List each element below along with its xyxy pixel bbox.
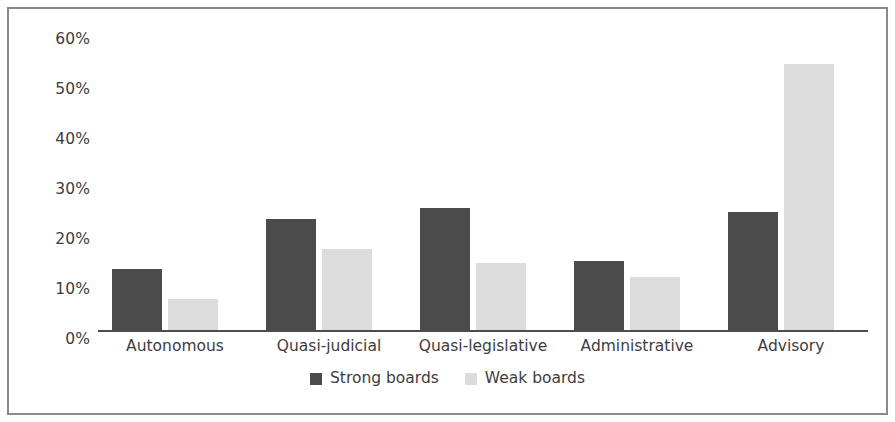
bar-strong-quasi-judicial [266,219,316,331]
bar-groups: Autonomous Quasi-judicial Quasi-legislat… [98,0,868,422]
bar-group-quasi-legislative: Quasi-legislative [406,0,560,422]
legend-item-weak-boards: Weak boards [465,371,585,387]
y-axis-tick-0: 0% [32,332,90,348]
y-axis-tick-30: 30% [32,182,90,198]
bar-strong-quasi-legislative [420,208,470,331]
y-axis-tick-50: 50% [32,82,90,98]
chart-legend: Strong boards Weak boards [0,371,895,387]
bar-weak-advisory [784,64,834,331]
y-axis-tick-20: 20% [32,232,90,248]
bar-weak-quasi-judicial [322,249,372,331]
weak-boards-swatch-icon [465,373,477,385]
bar-strong-autonomous [112,269,162,330]
bar-weak-administrative [630,277,680,330]
y-axis-tick-60: 60% [32,32,90,48]
x-axis-label-autonomous: Autonomous [98,338,252,355]
bar-group-advisory: Advisory [714,0,868,422]
x-axis-label-administrative: Administrative [560,338,714,355]
x-axis-label-quasi-judicial: Quasi-judicial [252,338,406,355]
strong-boards-swatch-icon [310,373,322,385]
chart-screenshot: 60% 50% 40% 30% 20% 10% 0% Autonomous Qu… [0,0,895,422]
legend-label-strong-boards: Strong boards [330,371,439,387]
bar-strong-advisory [728,212,778,331]
bar-strong-administrative [574,261,624,330]
bar-group-autonomous: Autonomous [98,0,252,422]
legend-label-weak-boards: Weak boards [485,371,585,387]
plot-area: 60% 50% 40% 30% 20% 10% 0% Autonomous Qu… [0,0,895,422]
y-axis-tick-10: 10% [32,282,90,298]
bar-group-administrative: Administrative [560,0,714,422]
legend-item-strong-boards: Strong boards [310,371,439,387]
y-axis-tick-labels: 60% 50% 40% 30% 20% 10% 0% [28,0,90,422]
bar-group-quasi-judicial: Quasi-judicial [252,0,406,422]
x-axis-label-quasi-legislative: Quasi-legislative [406,338,560,355]
bar-weak-quasi-legislative [476,263,526,331]
y-axis-tick-40: 40% [32,132,90,148]
bar-weak-autonomous [168,299,218,330]
x-axis-label-advisory: Advisory [714,338,868,355]
